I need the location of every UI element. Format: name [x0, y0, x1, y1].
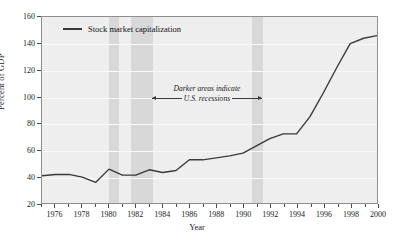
- x-axis-tick-mark: [149, 204, 150, 207]
- y-axis-tick-label: 20: [11, 200, 35, 209]
- x-axis-tick-label: 1992: [262, 210, 278, 219]
- stock-market-capitalization-line: [42, 36, 377, 183]
- x-axis-tick-mark: [122, 204, 123, 207]
- x-axis-tick-mark: [203, 204, 204, 207]
- x-axis-tick-mark: [257, 204, 258, 207]
- y-axis-tick-label: 160: [11, 12, 35, 21]
- y-axis-tick-label: 80: [11, 119, 35, 128]
- x-axis-tick-label: 1998: [343, 210, 359, 219]
- y-axis-label: Percent of GDP: [0, 53, 6, 110]
- arrow-left-icon: [152, 98, 182, 99]
- series-line-chart: [42, 17, 377, 203]
- x-axis-tick-mark: [351, 204, 352, 208]
- x-axis-tick-mark: [135, 204, 136, 208]
- x-axis-tick-mark: [365, 204, 366, 207]
- x-axis-tick-label: 2000: [370, 210, 386, 219]
- x-axis-tick-mark: [81, 204, 82, 208]
- plot-area: [41, 16, 378, 204]
- x-axis-tick-mark: [68, 204, 69, 207]
- chart-figure: Percent of GDP 20406080100120140160 1976…: [0, 0, 394, 240]
- recession-annotation: Darker areas indicate U.S. recessions: [152, 84, 262, 104]
- y-axis-tick-label: 60: [11, 146, 35, 155]
- chart-legend: Stock market capitalization: [63, 24, 181, 34]
- x-axis-tick-label: 1990: [235, 210, 251, 219]
- recession-annotation-arrow-row: U.S. recessions: [152, 94, 262, 104]
- x-axis-tick-mark: [176, 204, 177, 207]
- x-axis-label: Year: [0, 222, 394, 232]
- y-axis-tick-label: 40: [11, 173, 35, 182]
- recession-annotation-line2: U.S. recessions: [184, 94, 230, 104]
- y-axis-tick-label: 100: [11, 92, 35, 101]
- y-axis-tick-label: 140: [11, 38, 35, 47]
- x-axis-tick-label: 1988: [208, 210, 224, 219]
- x-axis-tick-label: 1982: [127, 210, 143, 219]
- x-axis-tick-mark: [243, 204, 244, 208]
- x-axis-tick-mark: [311, 204, 312, 207]
- y-axis-tick-label: 120: [11, 65, 35, 74]
- x-axis-tick-mark: [108, 204, 109, 208]
- x-axis-tick-mark: [230, 204, 231, 207]
- x-axis-tick-mark: [270, 204, 271, 208]
- x-axis-tick-label: 1980: [100, 210, 116, 219]
- x-axis-tick-mark: [162, 204, 163, 208]
- x-axis-tick-mark: [189, 204, 190, 208]
- x-axis-tick-label: 1984: [154, 210, 170, 219]
- x-axis-tick-mark: [338, 204, 339, 207]
- x-axis-tick-mark: [297, 204, 298, 208]
- legend-item-label: Stock market capitalization: [88, 24, 181, 34]
- x-axis-tick-mark: [284, 204, 285, 207]
- x-axis-tick-label: 1986: [181, 210, 197, 219]
- arrow-right-icon: [232, 98, 262, 99]
- x-axis-tick-mark: [378, 204, 379, 208]
- x-axis-tick-mark: [41, 204, 42, 207]
- x-axis-tick-label: 1994: [289, 210, 305, 219]
- x-axis-tick-mark: [54, 204, 55, 208]
- x-axis-tick-label: 1996: [316, 210, 332, 219]
- recession-annotation-line1: Darker areas indicate: [152, 84, 262, 94]
- x-axis-tick-mark: [216, 204, 217, 208]
- legend-line-swatch: [63, 28, 82, 30]
- x-axis-tick-label: 1976: [46, 210, 62, 219]
- x-axis-tick-mark: [324, 204, 325, 208]
- x-axis-tick-label: 1978: [73, 210, 89, 219]
- x-axis-tick-mark: [95, 204, 96, 207]
